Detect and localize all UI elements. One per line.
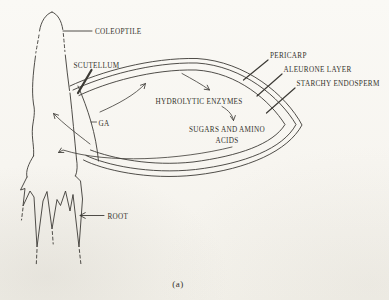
aleurone-layer-label: ALEURONE LAYER xyxy=(284,66,352,74)
root-label: ROOT xyxy=(108,213,129,221)
aleurone-leader-line xyxy=(257,74,282,96)
sugars-amino-label-line1: SUGARS AND AMINO xyxy=(189,126,265,134)
coleoptile-outline-right-dashed xyxy=(63,34,65,52)
starchy-endosperm-label: STARCHY ENDOSPERM xyxy=(297,80,380,88)
sugars-to-embryo-arrow xyxy=(59,147,233,159)
coleoptile-outline-right xyxy=(52,12,63,30)
root-shoulder-left xyxy=(27,156,34,177)
starchy-leader-line xyxy=(267,88,296,113)
embryo xyxy=(32,12,98,161)
aleurone-to-enzymes-arrow xyxy=(182,74,210,91)
hydrolytic-enzymes-label: HYDROLYTIC ENZYMES xyxy=(155,98,242,106)
root-shoulder-right xyxy=(76,159,78,176)
coleoptile-outline-left xyxy=(40,12,53,31)
root-tips-dashed xyxy=(22,208,82,266)
root-system xyxy=(21,156,83,266)
starchy-endosperm-outline xyxy=(79,70,285,163)
ga-to-aleurone-arrow xyxy=(100,84,146,113)
pericarp-leader-line xyxy=(244,60,269,80)
germinating-grain-diagram: COLEOPTILE SCUTELLUM PERICARP ALEURONE L… xyxy=(0,0,389,300)
ga-label: GA xyxy=(99,120,110,128)
embryo-outline-right xyxy=(65,55,69,91)
scutellum-boundary xyxy=(78,86,99,161)
root-spikes xyxy=(21,176,83,247)
scutellum-label: SCUTELLUM xyxy=(74,62,120,70)
embryo-outline-left xyxy=(32,56,35,156)
embryo-inner-boundary xyxy=(70,93,77,159)
pericarp-label: PERICARP xyxy=(270,52,307,60)
coleoptile-label: COLEOPTILE xyxy=(95,28,142,36)
figure-canvas: COLEOPTILE SCUTELLUM PERICARP ALEURONE L… xyxy=(0,0,389,300)
figure-caption: (a) xyxy=(172,279,184,289)
aleurone-layer-outline xyxy=(73,63,296,171)
sugars-amino-label-line2: ACIDS xyxy=(215,137,238,145)
enzymes-to-sugars-arrow xyxy=(222,107,234,121)
coleoptile-outline-left-dashed xyxy=(36,35,39,53)
sugars-to-scutellum-arrow xyxy=(54,114,91,145)
